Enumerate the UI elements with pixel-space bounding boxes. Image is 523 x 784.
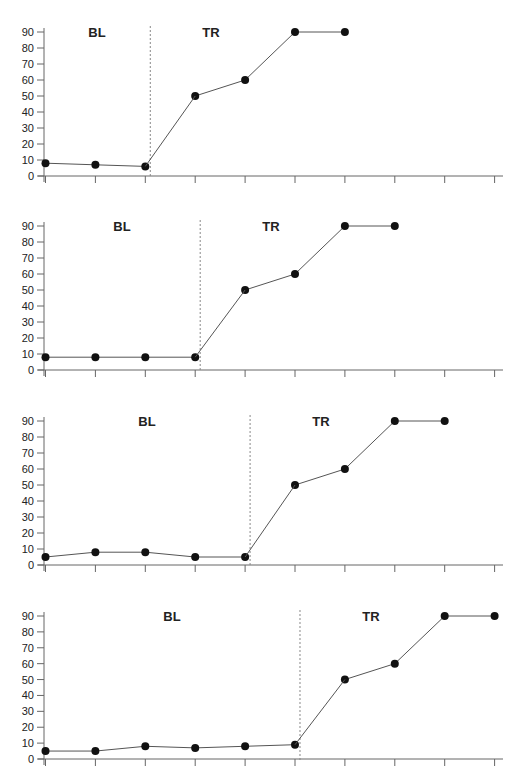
y-tick-label: 60 xyxy=(22,268,34,280)
y-tick-label: 70 xyxy=(22,642,34,654)
y-tick-label: 30 xyxy=(22,316,34,328)
y-tick-label: 30 xyxy=(22,122,34,134)
y-tick-label: 50 xyxy=(22,674,34,686)
y-tick-label: 0 xyxy=(28,559,34,571)
y-tick-label: 20 xyxy=(22,721,34,733)
y-tick-label: 80 xyxy=(22,42,34,54)
data-point xyxy=(291,270,299,278)
data-point xyxy=(91,747,99,755)
data-point xyxy=(42,353,50,361)
data-point xyxy=(191,744,199,752)
y-tick-label: 80 xyxy=(22,626,34,638)
y-tick-label: 90 xyxy=(22,220,34,232)
y-tick-label: 90 xyxy=(22,610,34,622)
chart-panel-3: 0102030405060708090BLTR xyxy=(22,414,503,572)
y-tick-label: 50 xyxy=(22,284,34,296)
y-tick-label: 20 xyxy=(22,527,34,539)
data-point xyxy=(341,465,349,473)
y-tick-label: 40 xyxy=(22,689,34,701)
data-point xyxy=(141,548,149,556)
chart-panel-2: 0102030405060708090BLTR xyxy=(22,219,503,377)
phase-transition-segment xyxy=(295,680,345,745)
y-tick-label: 50 xyxy=(22,90,34,102)
y-tick-label: 30 xyxy=(22,705,34,717)
phase-label-tr: TR xyxy=(362,609,380,624)
y-tick-label: 70 xyxy=(22,58,34,70)
y-tick-label: 80 xyxy=(22,431,34,443)
data-point xyxy=(391,222,399,230)
data-point xyxy=(341,28,349,36)
phase-transition-segment xyxy=(195,290,245,357)
data-point xyxy=(91,548,99,556)
y-tick-label: 60 xyxy=(22,74,34,86)
phase-label-tr: TR xyxy=(312,414,330,429)
phase-transition-segment xyxy=(145,96,195,166)
data-point xyxy=(42,747,50,755)
y-tick-label: 80 xyxy=(22,236,34,248)
y-tick-label: 0 xyxy=(28,170,34,182)
y-tick-label: 40 xyxy=(22,495,34,507)
y-tick-label: 60 xyxy=(22,463,34,475)
y-tick-label: 50 xyxy=(22,479,34,491)
y-tick-label: 0 xyxy=(28,364,34,376)
multiple-baseline-chart: 0102030405060708090BLTR01020304050607080… xyxy=(0,0,523,784)
data-line-tr xyxy=(345,616,495,680)
y-tick-label: 40 xyxy=(22,300,34,312)
y-tick-label: 70 xyxy=(22,252,34,264)
chart-panel-1: 0102030405060708090BLTR xyxy=(22,25,503,183)
data-point xyxy=(91,353,99,361)
data-point xyxy=(141,742,149,750)
phase-label-bl: BL xyxy=(113,219,130,234)
phase-label-bl: BL xyxy=(88,25,105,40)
y-tick-label: 90 xyxy=(22,415,34,427)
y-tick-label: 0 xyxy=(28,753,34,765)
y-tick-label: 60 xyxy=(22,658,34,670)
y-tick-label: 10 xyxy=(22,543,34,555)
data-point xyxy=(441,417,449,425)
data-point xyxy=(241,76,249,84)
y-tick-label: 10 xyxy=(22,348,34,360)
data-point xyxy=(91,161,99,169)
data-line-bl xyxy=(46,745,296,751)
data-point xyxy=(441,612,449,620)
y-tick-label: 10 xyxy=(22,737,34,749)
phase-label-bl: BL xyxy=(163,609,180,624)
phase-label-tr: TR xyxy=(262,219,280,234)
phase-label-bl: BL xyxy=(138,414,155,429)
data-point xyxy=(191,553,199,561)
y-tick-label: 70 xyxy=(22,447,34,459)
data-line-tr xyxy=(195,32,345,96)
phase-transition-segment xyxy=(245,485,295,557)
data-line-tr xyxy=(245,226,395,290)
data-line-tr xyxy=(295,421,445,485)
phase-label-tr: TR xyxy=(202,25,220,40)
y-tick-label: 30 xyxy=(22,511,34,523)
data-point xyxy=(491,612,499,620)
data-point xyxy=(42,159,50,167)
data-point xyxy=(42,553,50,561)
y-tick-label: 20 xyxy=(22,138,34,150)
y-tick-label: 10 xyxy=(22,154,34,166)
data-point xyxy=(291,28,299,36)
data-point xyxy=(241,742,249,750)
chart-panel-4: 0102030405060708090BLTR xyxy=(22,609,503,766)
y-tick-label: 20 xyxy=(22,332,34,344)
data-point xyxy=(391,660,399,668)
y-tick-label: 90 xyxy=(22,26,34,38)
data-point xyxy=(341,222,349,230)
data-point xyxy=(141,353,149,361)
data-point xyxy=(391,417,399,425)
chart-canvas: 0102030405060708090BLTR01020304050607080… xyxy=(0,0,523,784)
y-tick-label: 40 xyxy=(22,106,34,118)
